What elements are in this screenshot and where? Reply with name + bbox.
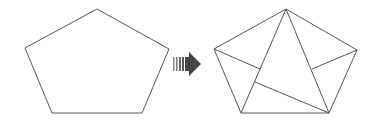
dissected-pentagon [214, 9, 357, 113]
diagram-canvas [0, 0, 379, 126]
transform-arrow-icon [173, 52, 201, 76]
original-pentagon [25, 9, 169, 113]
